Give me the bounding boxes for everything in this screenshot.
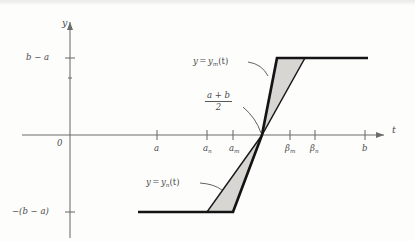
fraction-numerator: a + b: [205, 90, 232, 102]
t-tick-sub: n: [315, 148, 319, 154]
origin-label: 0: [57, 139, 62, 148]
t-tick-label-a-n: an: [203, 144, 212, 154]
t-axis: [22, 132, 384, 138]
annotation-midpoint-fraction: a + b 2: [205, 90, 232, 112]
annotation-equals: =: [198, 56, 208, 66]
t-tick-sub: m: [234, 148, 239, 154]
annotation-arg: (t): [169, 177, 179, 187]
y-tick-label-lower: −(b − a): [12, 207, 49, 216]
t-tick-label-a: a: [154, 144, 159, 154]
t-tick-label-beta-m: βm: [285, 144, 295, 154]
annotation-equals: =: [151, 177, 161, 187]
leader-upper-curve: [248, 62, 268, 76]
fraction-denominator: 2: [205, 102, 232, 113]
t-tick-sub: n: [208, 148, 212, 154]
y-tick-label-upper: b − a: [26, 53, 49, 62]
y-axis: [67, 22, 73, 238]
leader-midpoint: [243, 107, 261, 133]
annotation-upper-curve: y=ym(t): [193, 57, 228, 67]
t-tick-sub: m: [290, 148, 295, 154]
annotation-lower-curve: y=yn(t): [146, 178, 180, 188]
plot-svg: [0, 0, 415, 241]
figure-canvas: y t 0 b − a −(b − a) a an am βm βn b y=y…: [0, 0, 415, 241]
t-axis-label: t: [392, 125, 396, 135]
annotation-arg: (t): [218, 56, 228, 66]
t-tick-base: a: [154, 143, 159, 153]
t-tick-base: b: [362, 143, 367, 153]
t-tick-label-beta-n: βn: [310, 144, 319, 154]
t-tick-label-b: b: [362, 144, 367, 154]
leader-lower-curve: [200, 183, 222, 190]
y-axis-arrowhead: [67, 22, 73, 30]
t-axis-arrowhead: [376, 132, 384, 138]
t-tick-label-a-m: am: [229, 144, 240, 154]
y-axis-label: y: [62, 18, 67, 28]
